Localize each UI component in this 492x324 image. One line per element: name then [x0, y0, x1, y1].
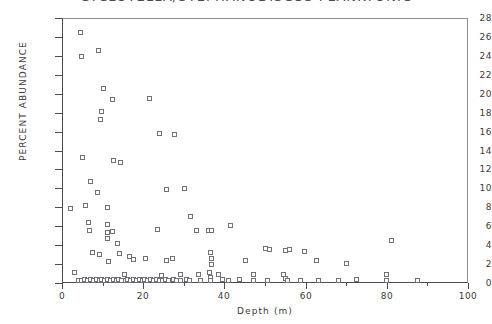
- data-point: [389, 238, 394, 243]
- y-axis-tick: [55, 75, 62, 76]
- y-axis-title: PERCENT ABUNDANCE: [18, 31, 28, 171]
- data-point: [220, 277, 225, 282]
- data-point: [178, 278, 183, 283]
- data-point: [111, 158, 116, 163]
- data-point: [188, 214, 193, 219]
- data-point: [182, 186, 187, 191]
- data-point: [106, 259, 111, 264]
- data-point: [115, 241, 120, 246]
- data-point: [118, 160, 123, 165]
- data-point: [251, 272, 256, 277]
- x-axis-tick-label: 100: [448, 292, 488, 301]
- data-point: [86, 220, 91, 225]
- data-point: [131, 257, 136, 262]
- x-axis-tick: [62, 283, 63, 289]
- y-axis-tick: [55, 207, 62, 208]
- chart-title: CYCLOTELLA/STEPHANODISCUS PLANKTONIC: [0, 0, 492, 4]
- data-point: [97, 252, 102, 257]
- data-point: [208, 250, 213, 255]
- data-point: [207, 270, 212, 275]
- data-point: [187, 278, 192, 283]
- data-point: [287, 247, 292, 252]
- data-point: [384, 272, 389, 277]
- data-point: [95, 190, 100, 195]
- data-point: [96, 48, 101, 53]
- x-axis-minor-tick: [427, 283, 428, 286]
- data-point: [208, 278, 213, 283]
- x-axis-tick-label: 0: [42, 292, 82, 301]
- data-point: [78, 30, 83, 35]
- x-axis-tick: [143, 283, 144, 289]
- data-point: [243, 258, 248, 263]
- data-point: [251, 278, 256, 283]
- data-point: [164, 258, 169, 263]
- data-point: [226, 278, 231, 283]
- data-point: [105, 236, 110, 241]
- x-axis-tick: [306, 283, 307, 289]
- data-point: [196, 272, 201, 277]
- y-axis-tick: [55, 113, 62, 114]
- data-point: [344, 261, 349, 266]
- data-point: [267, 247, 272, 252]
- x-axis-tick-label: 80: [367, 292, 407, 301]
- y-axis-tick: [55, 188, 62, 189]
- y-axis-tick: [55, 226, 62, 227]
- data-point: [415, 278, 420, 283]
- data-point: [101, 86, 106, 91]
- data-point: [216, 272, 221, 277]
- data-point: [105, 222, 110, 227]
- data-point: [298, 278, 303, 283]
- y-axis-tick: [55, 151, 62, 152]
- data-point: [314, 258, 319, 263]
- data-point: [147, 96, 152, 101]
- data-point: [83, 203, 88, 208]
- x-axis-minor-tick: [346, 283, 347, 286]
- y-axis-tick: [55, 283, 62, 284]
- data-point: [157, 131, 162, 136]
- data-point: [178, 272, 183, 277]
- scatter-chart-figure: CYCLOTELLA/STEPHANODISCUS PLANKTONIC PER…: [0, 0, 492, 324]
- y-axis-tick: [55, 132, 62, 133]
- plot-area: [62, 18, 468, 283]
- x-axis-tick: [224, 283, 225, 289]
- x-axis-minor-tick: [184, 283, 185, 286]
- data-point: [354, 277, 359, 282]
- data-point: [384, 278, 389, 283]
- data-point: [237, 277, 242, 282]
- y-axis-tick: [55, 169, 62, 170]
- data-point: [98, 117, 103, 122]
- data-point: [164, 187, 169, 192]
- data-point: [90, 250, 95, 255]
- data-point: [68, 206, 73, 211]
- data-point: [110, 229, 115, 234]
- y-axis-tick: [55, 18, 62, 19]
- data-point: [87, 228, 92, 233]
- data-point: [72, 270, 77, 275]
- data-point: [155, 227, 160, 232]
- data-point: [302, 249, 307, 254]
- data-point: [316, 278, 321, 283]
- data-point: [166, 278, 171, 283]
- x-axis-tick: [387, 283, 388, 289]
- y-axis-tick: [55, 37, 62, 38]
- data-point: [79, 54, 84, 59]
- data-point: [194, 228, 199, 233]
- data-point: [80, 155, 85, 160]
- data-point: [172, 132, 177, 137]
- data-point: [209, 256, 214, 261]
- data-point: [143, 256, 148, 261]
- data-point: [336, 278, 341, 283]
- data-point: [99, 109, 104, 114]
- data-point: [209, 262, 214, 267]
- data-point: [88, 179, 93, 184]
- data-point: [228, 223, 233, 228]
- data-point: [198, 278, 203, 283]
- x-axis-tick-label: 20: [123, 292, 163, 301]
- data-point: [285, 278, 290, 283]
- data-point: [209, 228, 214, 233]
- y-axis-tick: [55, 264, 62, 265]
- data-point: [170, 256, 175, 261]
- data-point: [265, 278, 270, 283]
- y-axis-tick: [55, 245, 62, 246]
- x-axis-tick-label: 40: [204, 292, 244, 301]
